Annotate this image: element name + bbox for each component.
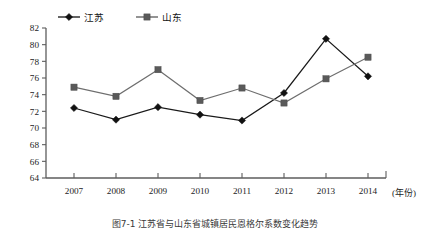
data-point-marker-diamond [70, 104, 77, 111]
data-point-marker-square [71, 84, 77, 90]
data-point-marker-diamond [112, 116, 119, 123]
y-tick-label: 66 [30, 157, 40, 167]
x-axis-ticks [74, 171, 386, 178]
data-point-marker-diamond [196, 111, 203, 118]
y-tick-label: 72 [30, 107, 40, 117]
x-tick-label: 2008 [107, 186, 126, 196]
data-point-marker-diamond [238, 117, 245, 124]
data-point-marker-square [239, 85, 245, 91]
y-tick-label: 64 [30, 173, 40, 183]
chart-legend: 江苏山东 [58, 12, 182, 23]
data-point-marker-square [197, 97, 203, 103]
chart-canvas: 64666870727476788082 2007200820092010201… [0, 0, 430, 228]
series-layer [70, 35, 371, 124]
legend-item-shandong[interactable]: 山东 [136, 12, 182, 23]
x-tick-label: 2014 [359, 186, 378, 196]
legend-label: 江苏 [84, 12, 104, 23]
x-tick-label: 2010 [191, 186, 210, 196]
y-tick-label: 82 [30, 23, 40, 33]
data-point-marker-square [323, 76, 329, 82]
y-tick-label: 80 [30, 40, 40, 50]
y-tick-label: 70 [30, 123, 40, 133]
series-shandong [71, 54, 371, 106]
data-point-marker-diamond [65, 13, 72, 20]
x-axis-tick-labels: 20072008200920102011201220132014 [65, 186, 378, 196]
y-tick-label: 74 [30, 90, 40, 100]
x-tick-label: 2013 [317, 186, 336, 196]
x-tick-label: 2012 [275, 186, 294, 196]
data-point-marker-square [281, 100, 287, 106]
data-point-marker-diamond [154, 104, 161, 111]
legend-label: 山东 [162, 12, 182, 23]
legend-item-jiangsu[interactable]: 江苏 [58, 12, 104, 23]
data-point-marker-square [365, 54, 371, 60]
y-axis-tick-labels: 64666870727476788082 [30, 23, 40, 183]
data-point-marker-square [155, 67, 161, 73]
figure-caption: 图7-1 江苏省与山东省城镇居民恩格尔系数变化趋势 [0, 217, 430, 228]
y-tick-label: 78 [30, 57, 40, 67]
x-tick-label: 2009 [149, 186, 168, 196]
y-tick-label: 68 [30, 140, 40, 150]
x-tick-label: 2007 [65, 186, 84, 196]
data-point-marker-square [144, 14, 150, 20]
x-axis-unit-label: (年份) [392, 187, 416, 198]
data-point-marker-square [113, 93, 119, 99]
y-tick-label: 76 [30, 73, 40, 83]
x-tick-label: 2011 [233, 186, 251, 196]
line-chart: 64666870727476788082 2007200820092010201… [0, 0, 430, 228]
